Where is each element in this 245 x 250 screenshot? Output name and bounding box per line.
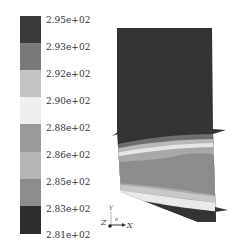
plate-geometry	[110, 28, 228, 230]
x-axis-label: X	[126, 221, 133, 230]
z-axis-dot-icon	[108, 224, 112, 228]
z-axis-label: Z	[100, 218, 107, 227]
x-axis-arrow-icon	[122, 223, 126, 227]
y-axis-label: Y	[109, 204, 114, 211]
origin-marker-icon	[115, 218, 118, 221]
contour-plot-view: Y Z X	[0, 0, 245, 250]
axis-triad: Y Z X	[100, 204, 133, 230]
